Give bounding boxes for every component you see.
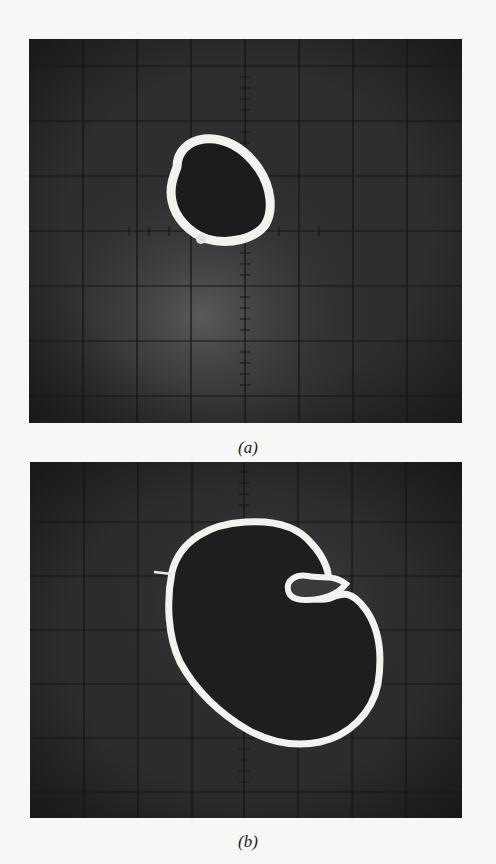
panel-caption-b: (b) (0, 832, 496, 852)
oscilloscope-screen-a (29, 39, 462, 423)
oscilloscope-panel-a (29, 39, 462, 423)
oscilloscope-screen-b (30, 462, 462, 818)
panel-caption-a: (a) (0, 438, 496, 458)
oscilloscope-panel-b (30, 462, 462, 818)
